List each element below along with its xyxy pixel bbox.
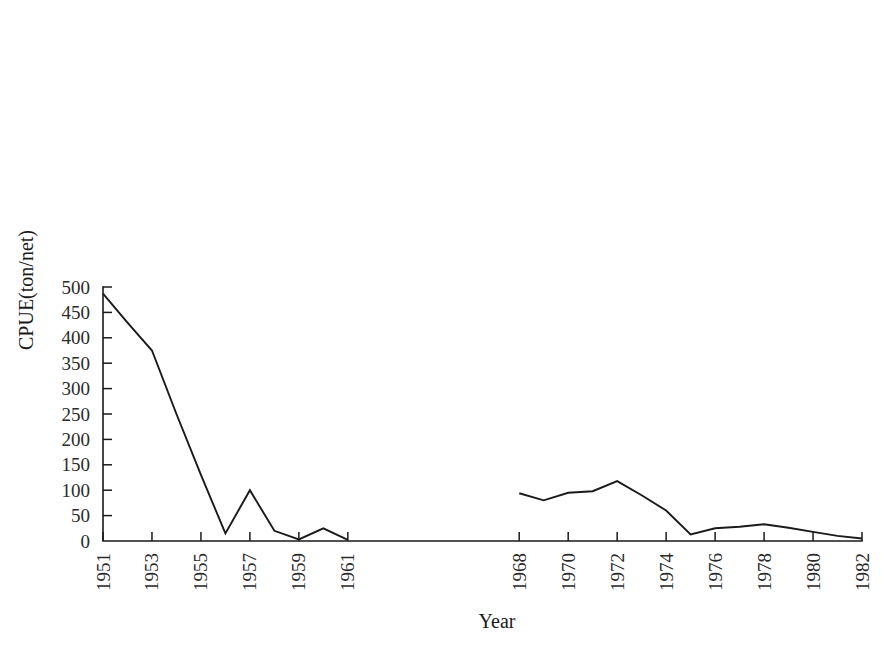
y-tick-label: 200 <box>62 429 91 450</box>
cpue-line-chart: 050100150200250300350400450500 195119531… <box>0 0 893 647</box>
x-tick-label: 1974 <box>656 553 677 592</box>
y-tick-label: 400 <box>62 327 91 348</box>
y-axis-title: CPUE(ton/net) <box>15 230 38 350</box>
x-tick-label: 1978 <box>754 553 775 591</box>
x-tick-label: 1976 <box>705 553 726 591</box>
chart-background <box>0 0 893 647</box>
x-tick-label: 1980 <box>803 553 824 591</box>
y-tick-label: 250 <box>62 404 91 425</box>
x-tick-label: 1982 <box>852 553 873 591</box>
x-tick-label: 1970 <box>558 553 579 591</box>
y-tick-label: 150 <box>62 454 91 475</box>
x-tick-label: 1951 <box>93 553 114 591</box>
x-tick-label: 1957 <box>239 553 260 591</box>
x-tick-label: 1955 <box>190 553 211 591</box>
y-tick-label: 0 <box>81 531 91 552</box>
y-tick-label: 500 <box>62 277 91 298</box>
x-tick-label: 1959 <box>288 553 309 591</box>
y-tick-label: 100 <box>62 480 91 501</box>
x-tick-label: 1972 <box>607 553 628 591</box>
x-tick-label: 1953 <box>141 553 162 591</box>
y-tick-label: 350 <box>62 353 91 374</box>
y-tick-label: 450 <box>62 302 91 323</box>
x-axis-title: Year <box>479 610 516 632</box>
chart-figure: 050100150200250300350400450500 195119531… <box>0 0 893 647</box>
y-tick-label: 50 <box>71 505 90 526</box>
y-tick-label: 300 <box>62 378 91 399</box>
x-tick-label: 1961 <box>337 553 358 591</box>
x-tick-label: 1968 <box>509 553 530 591</box>
